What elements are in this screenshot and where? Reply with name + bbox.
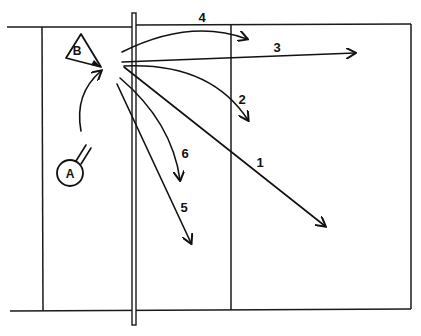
- attack-paths: [117, 31, 355, 243]
- path-3-label: 3: [273, 40, 280, 55]
- path-1-label: 1: [256, 155, 263, 170]
- player-b: B: [66, 34, 101, 67]
- sideline-top-right: [136, 24, 411, 25]
- player-a-label: A: [66, 167, 75, 181]
- sideline-bottom: [10, 309, 411, 311]
- path-4-arrow: [122, 31, 247, 52]
- net: [132, 13, 136, 325]
- path-4-label: 4: [198, 10, 206, 25]
- player-a: A: [57, 145, 91, 186]
- path-6-label: 6: [181, 146, 188, 161]
- path-5-arrow: [117, 84, 191, 243]
- volleyball-court-diagram: B A 1 2 3 4 5 6: [0, 0, 421, 336]
- pass-arrow-a-to-b: [80, 71, 101, 131]
- player-b-label: B: [73, 44, 82, 58]
- attack-line-left: [42, 27, 43, 311]
- path-3-arrow: [122, 53, 355, 62]
- path-1-arrow: [124, 67, 325, 226]
- path-5-label: 5: [180, 200, 187, 215]
- path-2-arrow: [124, 66, 248, 120]
- path-2-label: 2: [238, 92, 245, 107]
- path-6-arrow: [120, 78, 180, 180]
